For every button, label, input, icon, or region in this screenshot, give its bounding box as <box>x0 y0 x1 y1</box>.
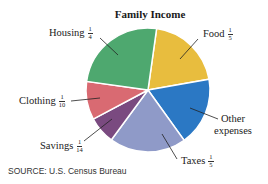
fraction-denominator: 4 <box>89 34 92 41</box>
housing-label-text: Housing <box>49 28 85 39</box>
savings-label-text: Savings <box>40 141 73 152</box>
fraction-denominator: 10 <box>59 102 66 109</box>
clothing-label: Clothing 110 <box>19 94 65 108</box>
other-label-line1: Other <box>221 113 245 125</box>
pie-slice-housing <box>87 28 157 90</box>
savings-fraction: 114 <box>76 139 83 153</box>
fraction-denominator: 14 <box>76 147 83 154</box>
other-expenses-label: Other expenses <box>214 113 252 137</box>
taxes-label-text: Taxes <box>181 156 205 167</box>
fraction-denominator: 5 <box>209 162 212 169</box>
savings-label: Savings 114 <box>40 139 83 153</box>
food-label-text: Food <box>203 29 225 40</box>
fraction-denominator: 5 <box>229 35 232 42</box>
housing-label: Housing 14 <box>49 26 93 40</box>
taxes-fraction: 15 <box>208 154 213 168</box>
clothing-fraction: 110 <box>59 94 66 108</box>
food-label: Food 15 <box>203 27 233 41</box>
taxes-label: Taxes 15 <box>181 154 214 168</box>
other-label-line2: expenses <box>214 125 252 137</box>
clothing-label-text: Clothing <box>19 96 56 107</box>
food-fraction: 15 <box>228 27 233 41</box>
housing-fraction: 14 <box>88 26 93 40</box>
source-note: SOURCE: U.S. Census Bureau <box>8 166 127 176</box>
